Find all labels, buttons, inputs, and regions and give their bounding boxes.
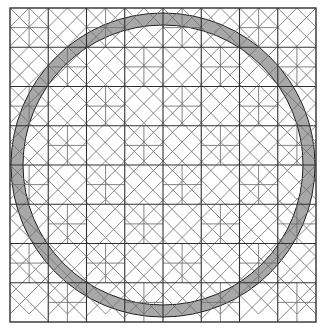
tiling-figure <box>0 0 327 330</box>
pattern-canvas <box>0 0 327 330</box>
